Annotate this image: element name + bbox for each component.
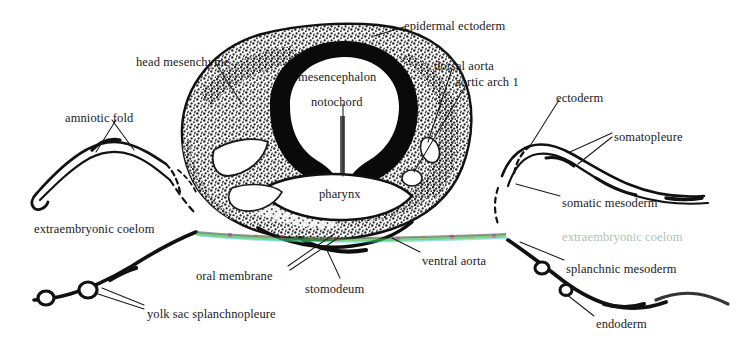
illustration-canvas: [0, 0, 744, 339]
label-yolk-sac-splanchnopleure: yolk sac splanchnopleure: [147, 308, 276, 321]
label-extraembryonic-coelom-left: extraembryonic coelom: [34, 223, 154, 236]
label-somatic-mesoderm: somatic mesoderm: [562, 197, 658, 210]
amnion-membrane-left: [32, 139, 196, 214]
label-head-mesenchyme: head mesenchyme: [136, 56, 229, 69]
label-ectoderm: ectoderm: [556, 92, 603, 105]
label-splanchnic-mesoderm: splanchnic mesoderm: [566, 263, 677, 276]
yolk-sac-membrane-left: [34, 232, 196, 305]
leader-somatic-mesoderm: [516, 184, 560, 196]
embryo-cross-section-figure: epidermal ectoderm head mesenchyme mesen…: [0, 0, 744, 339]
label-mesencephalon: mesencephalon: [298, 71, 376, 84]
label-dorsal-aorta: dorsal aorta: [434, 60, 494, 73]
label-notochord: notochord: [311, 96, 363, 109]
label-epidermal-ectoderm: epidermal ectoderm: [404, 20, 505, 33]
label-amniotic-fold: amniotic fold: [65, 112, 133, 125]
label-ventral-aorta: ventral aorta: [422, 255, 486, 268]
aortic-arch-lumen: [402, 170, 422, 186]
label-pharynx: pharynx: [319, 188, 361, 201]
label-stomodeum: stomodeum: [305, 283, 364, 296]
label-extraembryonic-coelom-right: extraembryonic coelom: [562, 231, 682, 244]
label-oral-membrane: oral membrane: [196, 270, 273, 283]
label-aortic-arch-1: aortic arch 1: [455, 76, 519, 89]
amnion-membrane-right: [495, 144, 708, 224]
leader-ectoderm: [530, 100, 559, 146]
label-somatopleure: somatopleure: [614, 131, 683, 144]
label-endoderm: endoderm: [596, 318, 647, 331]
